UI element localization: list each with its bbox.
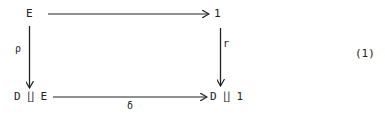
diagram-arrows bbox=[0, 0, 385, 114]
node-top-right: 1 bbox=[214, 8, 221, 20]
node-top-left: E bbox=[26, 8, 33, 20]
node-bottom-left: D ∐ E bbox=[14, 91, 47, 103]
equation-number: (1) bbox=[355, 48, 375, 60]
arrow-label-right: r bbox=[223, 38, 229, 50]
arrow-label-bottom: δ bbox=[127, 100, 133, 112]
node-bottom-right: D ∐ 1 bbox=[210, 91, 243, 103]
arrow-label-left: ρ bbox=[15, 43, 21, 55]
